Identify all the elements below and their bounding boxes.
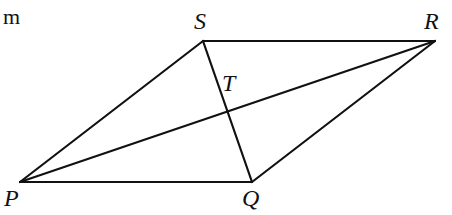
vertex-label-T: T xyxy=(222,70,235,97)
corner-label: m xyxy=(3,4,20,30)
vertex-label-R: R xyxy=(424,8,439,35)
vertex-label-Q: Q xyxy=(242,185,259,212)
vertex-label-P: P xyxy=(4,185,19,212)
side-PS xyxy=(20,41,203,182)
parallelogram-diagram xyxy=(0,0,452,215)
side-RQ xyxy=(252,41,435,182)
vertex-label-S: S xyxy=(194,8,206,35)
diagonal-SQ xyxy=(203,41,252,182)
